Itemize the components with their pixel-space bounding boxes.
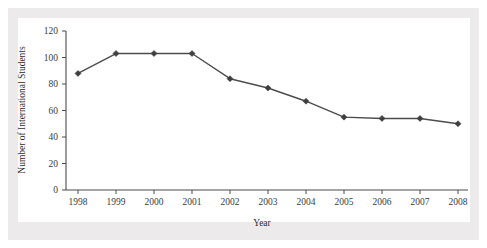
x-tick-label: 2001 xyxy=(183,197,202,207)
data-point-marker xyxy=(417,115,423,121)
y-tick-label: 40 xyxy=(49,132,59,142)
x-tick-label: 2004 xyxy=(297,197,316,207)
x-tick-label: 2000 xyxy=(145,197,164,207)
y-axis-ticks: 020406080100120 xyxy=(44,26,66,195)
y-tick-label: 120 xyxy=(44,26,59,36)
x-tick-label: 2008 xyxy=(449,197,468,207)
y-tick-label: 20 xyxy=(49,159,59,169)
y-tick-label: 80 xyxy=(49,79,59,89)
x-tick-label: 2005 xyxy=(335,197,354,207)
data-point-marker xyxy=(455,121,461,127)
line-chart: Number of International Students Year 02… xyxy=(0,0,487,248)
y-tick-label: 0 xyxy=(53,185,58,195)
y-tick-label: 60 xyxy=(49,106,59,116)
data-point-marker xyxy=(265,85,271,91)
x-tick-label: 1999 xyxy=(107,197,126,207)
data-point-marker xyxy=(379,115,385,121)
x-axis-title: Year xyxy=(253,218,271,228)
data-point-markers xyxy=(75,51,461,127)
data-point-marker xyxy=(303,98,309,104)
data-point-marker xyxy=(151,51,157,57)
x-tick-label: 2003 xyxy=(259,197,278,207)
y-tick-label: 100 xyxy=(44,53,59,63)
x-tick-label: 2006 xyxy=(373,197,392,207)
data-point-marker xyxy=(75,70,81,76)
y-axis-title: Number of International Students xyxy=(17,46,27,174)
x-tick-label: 2007 xyxy=(411,197,430,207)
data-point-marker xyxy=(341,114,347,120)
x-tick-label: 1998 xyxy=(69,197,88,207)
x-axis-ticks: 1998199920002001200220032004200520062007… xyxy=(69,190,468,207)
x-tick-label: 2002 xyxy=(221,197,240,207)
data-point-marker xyxy=(113,51,119,57)
figure: Number of International Students Year 02… xyxy=(0,0,487,248)
